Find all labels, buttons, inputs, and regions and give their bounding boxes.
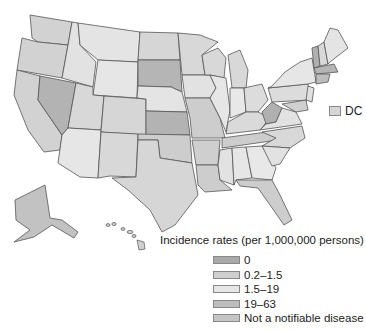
state-connecticut-ri <box>316 74 330 84</box>
legend-swatch <box>213 300 240 308</box>
state-colorado <box>101 96 146 135</box>
state-iowa <box>182 75 216 98</box>
legend-label: 0 <box>244 254 250 266</box>
state-arkansas <box>192 140 220 165</box>
state-wyoming <box>93 60 138 98</box>
state-washington <box>30 15 72 45</box>
legend-label: 1.5–19 <box>244 283 279 295</box>
dc-label: DC <box>345 104 362 118</box>
legend-swatch <box>213 314 240 322</box>
state-michigan <box>228 50 248 88</box>
legend-swatch <box>213 256 240 264</box>
legend-title: Incidence rates (per 1,000,000 persons) <box>160 234 364 246</box>
state-hawaii <box>106 223 145 251</box>
legend-item-0: 0 <box>213 253 364 268</box>
state-new-york <box>268 58 316 88</box>
legend-label: 0.2–1.5 <box>244 269 282 281</box>
state-kansas <box>146 111 190 135</box>
dc-indicator: DC <box>329 104 362 118</box>
legend-label: Not a notifiable disease <box>244 312 364 324</box>
state-arizona <box>58 128 101 178</box>
state-ohio <box>244 84 268 112</box>
legend-swatch <box>213 285 240 293</box>
legend-item-0-2-1-5: 0.2–1.5 <box>213 268 364 283</box>
legend-item-1-5-19: 1.5–19 <box>213 282 364 297</box>
state-alaska <box>14 185 78 242</box>
dc-swatch <box>329 106 341 116</box>
legend: 0 0.2–1.5 1.5–19 19–63 Not a notifiable … <box>213 253 364 326</box>
state-new-mexico <box>98 132 138 178</box>
legend-item-not-notifiable: Not a notifiable disease <box>213 311 364 326</box>
state-maine <box>324 28 348 64</box>
legend-item-19-63: 19–63 <box>213 297 364 312</box>
legend-swatch <box>213 271 240 279</box>
legend-label: 19–63 <box>244 298 276 310</box>
state-mississippi <box>218 148 234 185</box>
state-north-dakota <box>138 32 180 60</box>
state-florida <box>236 180 292 225</box>
